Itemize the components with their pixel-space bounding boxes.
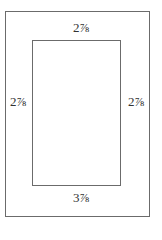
bottom-margin-label: 3⅞ bbox=[73, 191, 89, 204]
right-margin-label: 2⅞ bbox=[128, 95, 144, 108]
top-margin-label: 2⅞ bbox=[73, 21, 89, 34]
left-margin-label: 2⅞ bbox=[10, 95, 26, 108]
inner-opening bbox=[32, 40, 121, 186]
